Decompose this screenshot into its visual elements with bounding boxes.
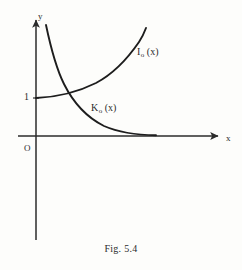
- figure-caption: Fig. 5.4: [0, 243, 242, 254]
- curve-label-i-zero: Io(x): [137, 47, 159, 59]
- curve-i-argument: (x): [144, 46, 158, 57]
- plot-canvas: [0, 0, 242, 270]
- y-axis-tick-label-1: 1: [24, 92, 29, 102]
- figure-container: y x O 1 Io(x) Ko(x) Fig. 5.4: [0, 0, 242, 270]
- curve-k-argument: (x): [102, 102, 116, 113]
- x-axis-label: x: [226, 134, 231, 143]
- curve-i-zero: [36, 28, 146, 98]
- y-axis-label: y: [38, 12, 43, 21]
- curve-label-k-zero: Ko(x): [91, 103, 116, 115]
- origin-label: O: [24, 144, 31, 153]
